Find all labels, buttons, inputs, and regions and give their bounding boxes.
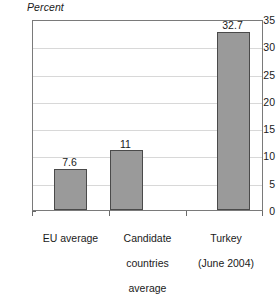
x-tick-mark-end — [262, 211, 263, 216]
bar-value-turkey-june-2004: 32.7 — [216, 20, 249, 31]
x-tick-mark-start — [32, 211, 33, 216]
x-category-line: (June 2004) — [186, 257, 266, 270]
bar-eu-average[interactable] — [54, 169, 87, 211]
plot-area — [32, 20, 263, 211]
x-category-line: average — [109, 282, 186, 295]
x-category-line: EU average — [43, 232, 98, 244]
x-tick-mark-2 — [186, 211, 187, 216]
bar-value-candidate-countries-average: 11 — [109, 139, 142, 150]
x-category-line: Turkey — [186, 232, 266, 245]
x-category-line: countries — [109, 257, 186, 270]
bar-value-eu-average: 7.6 — [53, 157, 86, 168]
bar-candidate-countries-average[interactable] — [110, 150, 143, 210]
x-category-line: Candidate — [109, 232, 186, 245]
bar-turkey-june-2004[interactable] — [217, 32, 250, 210]
x-category-label-eu-average: EU average — [32, 219, 109, 244]
x-category-label-candidate-countries-average: Candidate countries average — [109, 219, 186, 298]
x-tick-mark-1 — [109, 211, 110, 216]
y-axis-unit-title: Percent — [27, 1, 64, 13]
x-category-label-turkey-june-2004: Turkey (June 2004) — [186, 219, 266, 282]
